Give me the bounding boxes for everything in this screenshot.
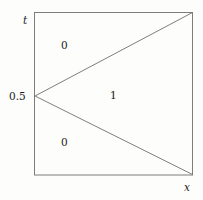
y-tick-label-0-5: 0.5 — [9, 91, 26, 102]
axis-label-t: t — [23, 15, 27, 26]
region-label-inner-one: 1 — [110, 90, 117, 101]
region-label-lower-zero: 0 — [61, 137, 68, 148]
axis-label-x: x — [184, 182, 190, 193]
figure-xt-region-diagram: t x 0.5 0 1 0 — [0, 0, 203, 200]
plot-area — [0, 0, 203, 200]
region-label-upper-zero: 0 — [61, 40, 68, 51]
upper-characteristic-line — [35, 13, 193, 97]
lower-characteristic-line — [35, 96, 193, 175]
